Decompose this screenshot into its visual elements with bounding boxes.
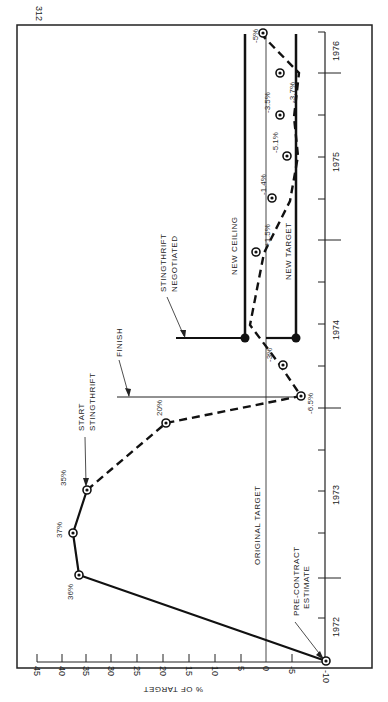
tick-0: 0: [261, 666, 271, 671]
page-number: 312: [34, 6, 44, 21]
tick-30: 30: [106, 666, 116, 676]
series-solid-line: [73, 490, 326, 661]
year-1972: 1972: [331, 617, 341, 637]
tick-minus-5: -5: [287, 666, 297, 674]
label-20: 20%: [155, 400, 164, 416]
label-plus-1-5: +1.5%: [263, 224, 272, 247]
label-35: 35%: [59, 470, 68, 486]
year-1973: 1973: [331, 485, 341, 505]
label-minus-6-5: -6.5%: [306, 393, 315, 414]
value-axis: 45 40 35 30 25 20 15 10 5 0 -5 -10 % OF …: [32, 654, 331, 694]
chart-frame: [17, 25, 372, 668]
label-minus-5: -5%: [251, 29, 260, 43]
label-37: 37%: [55, 522, 64, 538]
label-36: 36%: [66, 584, 75, 600]
tick-5: 5: [236, 666, 246, 671]
year-1975: 1975: [331, 152, 341, 172]
start-arrow: [85, 437, 86, 484]
tick-40: 40: [57, 666, 67, 676]
original-target-label: ORIGINAL TARGET: [253, 486, 262, 565]
year-1976: 1976: [331, 41, 341, 61]
label-minus-5-1: -5.1%: [271, 132, 280, 153]
pre-contract-label-1: PRE-CONTRACT: [292, 546, 301, 616]
time-axis: 1972 1973 1974 1975 1976: [318, 32, 341, 662]
new-ceiling-label: NEW CEILING: [230, 217, 239, 275]
chart-canvas: 312 45 40 35 30 25 20 15 10 5 0 -5 -10 %…: [0, 0, 388, 702]
new-target-label: NEW TARGET: [284, 222, 293, 280]
negotiated-label-1: STINGTHRIFT: [159, 234, 168, 292]
pre-contract-label-2: ESTIMATE: [302, 566, 311, 609]
new-limits: NEW CEILING NEW TARGET: [176, 34, 301, 343]
label-minus-3-5: -3.5%: [263, 92, 272, 113]
negotiated-label-2: NEGOTIATED: [170, 236, 179, 292]
data-marker-centers: [71, 31, 327, 662]
tick-20: 20: [158, 666, 168, 676]
tick-10: 10: [210, 666, 220, 676]
year-1974: 1974: [331, 320, 341, 340]
finish-arrowhead: [125, 388, 131, 397]
finish-label: FINISH: [115, 328, 124, 357]
start-label-1: START: [77, 403, 86, 431]
negotiated-arrowhead: [180, 330, 186, 338]
start-label-2: STINGTHRIFT: [88, 373, 97, 431]
tick-45: 45: [32, 666, 42, 676]
label-minus-3-7: -3.7%: [288, 82, 297, 103]
tick-35: 35: [81, 666, 91, 676]
tick-minus-10: -10: [321, 670, 331, 683]
label-minus-3: -3%: [265, 348, 274, 362]
data-markers: [69, 29, 330, 665]
label-minus-1-4: -1.4%: [259, 174, 268, 195]
value-axis-title: % OF TARGET: [143, 685, 203, 694]
tick-15: 15: [184, 666, 194, 676]
tick-25: 25: [132, 666, 142, 676]
